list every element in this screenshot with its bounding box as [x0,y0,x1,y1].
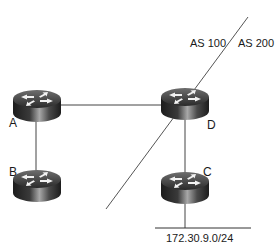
router-a-icon [13,90,61,122]
router-b-label: B [9,167,17,178]
router-b-icon [13,170,61,202]
network-label: 172.30.9.0/24 [166,233,233,244]
router-d-icon [161,88,209,120]
as-200-label: AS 200 [238,38,274,49]
as-100-label: AS 100 [190,38,226,49]
router-c-label: C [203,167,212,178]
router-d-label: D [207,120,216,131]
router-c-icon [161,172,209,204]
network-diagram: AS 100 AS 200 A B C D 172.30.9.0/24 [0,0,280,251]
router-a-label: A [9,118,17,129]
